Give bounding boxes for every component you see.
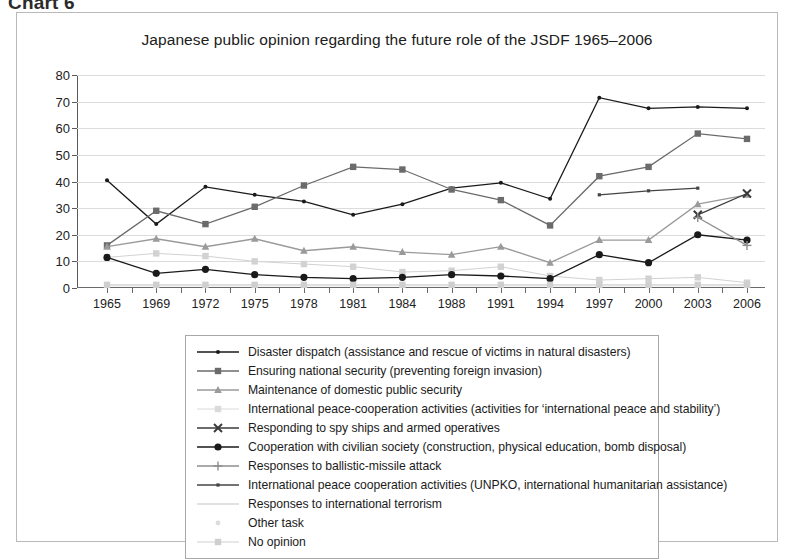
legend-item-label: International peace-cooperation activiti… (248, 402, 720, 416)
legend-item-label: International peace cooperation activiti… (248, 478, 727, 492)
series-triangle (103, 191, 751, 266)
x-tick-label: 1997 (585, 297, 613, 311)
legend-item-label: Responses to ballistic-missile attack (248, 459, 441, 473)
x-tick-label: 1981 (339, 297, 367, 311)
series-layer (77, 75, 765, 290)
series-x-mark (694, 189, 751, 218)
series-square-faint (104, 282, 750, 288)
y-tick-label: 70 (56, 94, 70, 109)
legend-item[interactable]: International peace cooperation activiti… (186, 475, 658, 494)
series-diamond (105, 96, 749, 226)
legend-item-label: Responding to spy ships and armed operat… (248, 421, 500, 435)
legend-item[interactable]: Cooperation with civilian society (const… (186, 437, 658, 456)
x-tick-label: 1975 (241, 297, 269, 311)
x-tick-label: 1965 (93, 297, 121, 311)
x-tick-label: 1969 (142, 297, 170, 311)
series-dot-faint (105, 283, 750, 288)
y-tick-label: 10 (56, 254, 70, 269)
legend-item[interactable]: No opinion (186, 532, 658, 551)
x-tick-label: 2003 (684, 297, 712, 311)
legend-marker-square-icon (195, 364, 241, 378)
legend-item-label: Maintenance of domestic public security (248, 383, 462, 397)
legend-marker-circle-icon (195, 440, 241, 454)
legend-marker-diamond-icon (195, 345, 241, 359)
series-circle (103, 231, 750, 282)
legend-item-label: Responses to international terrorism (248, 497, 442, 511)
x-tick-label: 1984 (388, 297, 416, 311)
legend-item[interactable]: Maintenance of domestic public security (186, 380, 658, 399)
y-tick-label: 60 (56, 121, 70, 136)
legend-marker-x-mark-icon (195, 421, 241, 435)
legend-item-label: No opinion (248, 535, 306, 549)
series-square (104, 130, 750, 248)
x-tick-label: 1988 (438, 297, 466, 311)
x-tick-label: 1972 (192, 297, 220, 311)
legend: Disaster dispatch (assistance and rescue… (185, 335, 659, 559)
y-tick-label: 50 (56, 147, 70, 162)
y-tick-label: 30 (56, 201, 70, 216)
legend-marker-triangle-icon (195, 383, 241, 397)
legend-item[interactable]: Other task (186, 513, 658, 532)
legend-item[interactable]: Responses to international terrorism (186, 494, 658, 513)
legend-marker-dot-faint-icon (195, 516, 241, 530)
x-tick-label: 2000 (635, 297, 663, 311)
legend-marker-line-only-icon (195, 497, 241, 511)
legend-marker-square-faint-icon (195, 535, 241, 549)
legend-item-label: Ensuring national security (preventing f… (248, 364, 542, 378)
series-square-light (104, 250, 750, 286)
legend-item[interactable]: Responding to spy ships and armed operat… (186, 418, 658, 437)
x-tick-label: 2006 (733, 297, 761, 311)
figure-frame: Japanese public opinion regarding the fu… (16, 12, 778, 542)
chart-title: Japanese public opinion regarding the fu… (17, 31, 777, 49)
y-tick-label: 80 (56, 68, 70, 83)
x-tick-label: 1978 (290, 297, 318, 311)
legend-item-label: Disaster dispatch (assistance and rescue… (248, 345, 630, 359)
series-small-dot (598, 187, 700, 197)
legend-item[interactable]: International peace-cooperation activiti… (186, 399, 658, 418)
plot-area: 01020304050607080 1965196919721975197819… (77, 75, 765, 288)
legend-item[interactable]: Disaster dispatch (assistance and rescue… (186, 342, 658, 361)
legend-item[interactable]: Responses to ballistic-missile attack (186, 456, 658, 475)
legend-item-label: Other task (248, 516, 304, 530)
y-tick-label: 40 (56, 174, 70, 189)
y-tick-label: 20 (56, 227, 70, 242)
legend-marker-square-light-icon (195, 402, 241, 416)
x-tick-label: 1991 (487, 297, 515, 311)
y-tick-label: 0 (63, 281, 70, 296)
legend-item[interactable]: Ensuring national security (preventing f… (186, 361, 658, 380)
legend-marker-small-dot-icon (195, 478, 241, 492)
x-tick-label: 1994 (536, 297, 564, 311)
legend-marker-plus-icon (195, 459, 241, 473)
legend-item-label: Cooperation with civilian society (const… (248, 440, 686, 454)
